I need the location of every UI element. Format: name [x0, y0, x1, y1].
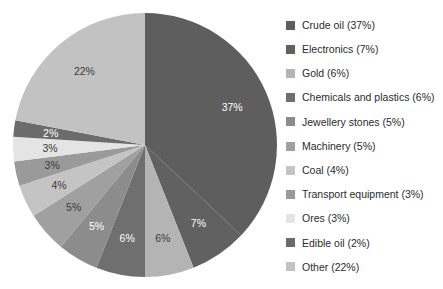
pie-plot-area: 37%7%6%6%5%5%4%3%3%2%22%	[0, 0, 290, 289]
legend-item-label: Transport equipment (3%)	[302, 189, 424, 200]
legend-item-label: Ores (3%)	[302, 213, 350, 224]
legend-item-label: Gold (6%)	[302, 68, 349, 79]
chart-legend: Crude oil (37%)Electronics (7%)Gold (6%)…	[286, 13, 443, 279]
legend-item-label: Edible oil (2%)	[302, 238, 370, 249]
legend-swatch-icon	[286, 21, 295, 30]
pie-chart: 37%7%6%6%5%5%4%3%3%2%22% Crude oil (37%)…	[0, 0, 443, 289]
legend-item[interactable]: Other (22%)	[286, 255, 443, 279]
legend-item-label: Chemicals and plastics (6%)	[302, 92, 434, 103]
legend-item[interactable]: Crude oil (37%)	[286, 13, 443, 37]
legend-swatch-icon	[286, 238, 295, 247]
pie-slice-label: 3%	[45, 159, 60, 171]
legend-item[interactable]: Ores (3%)	[286, 207, 443, 231]
legend-item[interactable]: Electronics (7%)	[286, 37, 443, 61]
legend-swatch-icon	[286, 93, 295, 102]
pie-slice-label: 3%	[42, 142, 57, 154]
legend-swatch-icon	[286, 45, 295, 54]
pie-slice-label: 4%	[51, 179, 66, 191]
legend-item-label: Electronics (7%)	[302, 44, 378, 55]
pie-slice-label: 2%	[43, 127, 58, 139]
legend-swatch-icon	[286, 117, 295, 126]
pie-slice-label: 6%	[120, 232, 135, 244]
legend-swatch-icon	[286, 190, 295, 199]
legend-item-label: Machinery (5%)	[302, 141, 376, 152]
legend-item[interactable]: Coal (4%)	[286, 158, 443, 182]
pie-slice-label: 22%	[74, 65, 95, 77]
legend-swatch-icon	[286, 142, 295, 151]
legend-item-label: Jewellery stones (5%)	[302, 117, 405, 128]
pie-svg: 37%7%6%6%5%5%4%3%3%2%22%	[0, 0, 290, 289]
legend-swatch-icon	[286, 262, 295, 271]
pie-slice-label: 6%	[155, 232, 170, 244]
legend-item[interactable]: Chemicals and plastics (6%)	[286, 86, 443, 110]
pie-slice-label: 7%	[191, 217, 206, 229]
legend-swatch-icon	[286, 214, 295, 223]
legend-item-label: Other (22%)	[302, 262, 359, 273]
pie-slice-label: 5%	[66, 201, 81, 213]
legend-swatch-icon	[286, 69, 295, 78]
legend-item-label: Crude oil (37%)	[302, 20, 375, 31]
legend-item[interactable]: Transport equipment (3%)	[286, 182, 443, 206]
pie-slice-label: 37%	[222, 101, 243, 113]
legend-item[interactable]: Machinery (5%)	[286, 134, 443, 158]
legend-item[interactable]: Jewellery stones (5%)	[286, 110, 443, 134]
legend-item[interactable]: Edible oil (2%)	[286, 231, 443, 255]
legend-item[interactable]: Gold (6%)	[286, 61, 443, 85]
legend-item-label: Coal (4%)	[302, 165, 349, 176]
pie-slice-label: 5%	[89, 220, 104, 232]
legend-swatch-icon	[286, 166, 295, 175]
